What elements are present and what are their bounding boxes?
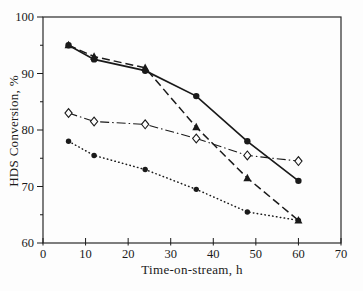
x-tick-label: 40: [207, 247, 220, 261]
x-tick-label: 10: [79, 247, 92, 261]
x-tick-label: 0: [40, 247, 46, 261]
circle-marker: [295, 178, 301, 184]
plot-frame: [43, 17, 341, 243]
circle-marker: [193, 93, 199, 99]
plot-svg: 01020304050607060708090100: [0, 0, 363, 291]
x-tick-label: 20: [122, 247, 135, 261]
y-tick-label: 100: [15, 10, 34, 24]
circle-marker: [142, 67, 148, 73]
circle-marker: [142, 167, 147, 172]
series-line-dashed-filled-triangle: [69, 45, 299, 220]
circle-marker: [245, 209, 250, 214]
diamond-marker: [90, 117, 97, 126]
x-axis-title: Time-on-stream, h: [43, 262, 341, 278]
circle-marker: [66, 139, 71, 144]
y-tick-label: 80: [22, 123, 35, 137]
diamond-marker: [65, 109, 72, 118]
hds-conversion-figure: 01020304050607060708090100 Time-on-strea…: [0, 0, 363, 291]
y-tick-label: 90: [22, 67, 35, 81]
triangle-marker: [192, 123, 200, 130]
diamond-marker: [142, 120, 149, 129]
y-axis-title: HDS Conversion, %: [6, 66, 22, 196]
circle-marker: [91, 153, 96, 158]
diamond-marker: [193, 134, 200, 143]
x-tick-label: 70: [335, 247, 348, 261]
y-tick-label: 60: [22, 236, 35, 250]
x-tick-label: 30: [164, 247, 177, 261]
diamond-marker: [244, 151, 251, 160]
triangle-marker: [243, 174, 251, 182]
diamond-marker: [295, 157, 302, 166]
y-tick-label: 70: [22, 180, 35, 194]
x-tick-label: 60: [292, 247, 305, 261]
x-tick-label: 50: [250, 247, 263, 261]
circle-marker: [194, 187, 199, 192]
circle-marker: [91, 56, 97, 62]
circle-marker: [65, 42, 71, 48]
circle-marker: [244, 138, 250, 144]
